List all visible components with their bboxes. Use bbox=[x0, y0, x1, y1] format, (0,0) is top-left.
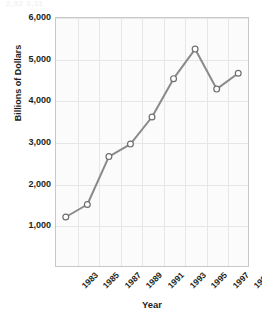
data-point-marker bbox=[128, 141, 134, 147]
x-axis-tick-label: 1999 bbox=[252, 270, 262, 290]
x-axis-tick-label: 1993 bbox=[187, 270, 207, 290]
data-point-marker bbox=[214, 86, 220, 92]
data-point-marker bbox=[192, 46, 198, 52]
series-line bbox=[66, 49, 238, 217]
data-point-marker bbox=[84, 202, 90, 208]
x-axis-tick-label: 1991 bbox=[166, 270, 186, 290]
x-axis-title: Year bbox=[55, 299, 249, 310]
x-axis-tick-label: 1987 bbox=[122, 270, 142, 290]
y-axis-tick-label: 2,000 bbox=[3, 179, 51, 189]
data-point-marker bbox=[149, 114, 155, 120]
x-axis-tick-label: 1997 bbox=[230, 270, 250, 290]
line-chart: 2,52 2,11 Billions of Dollars 6,0005,000… bbox=[0, 0, 262, 316]
data-point-marker bbox=[235, 70, 241, 76]
x-axis-tick-label: 1983 bbox=[79, 270, 99, 290]
x-axis-tick-label: 1989 bbox=[144, 270, 164, 290]
y-axis-tick-label: 1,000 bbox=[3, 220, 51, 230]
x-axis-tick-label: 1985 bbox=[101, 270, 121, 290]
y-axis-tick-label: 4,000 bbox=[3, 95, 51, 105]
data-point-marker bbox=[171, 76, 177, 82]
data-point-marker bbox=[106, 154, 112, 160]
y-axis-tick-label: 6,000 bbox=[3, 12, 51, 22]
x-axis-tick-labels: 198319851987198919911993199519971999 bbox=[55, 268, 249, 300]
data-series-layer bbox=[55, 17, 249, 267]
y-axis-tick-label: 3,000 bbox=[3, 137, 51, 147]
data-point-marker bbox=[63, 214, 69, 220]
faded-header-text: 2,52 2,11 bbox=[6, 0, 43, 8]
y-axis-tick-labels: 6,0005,0004,0003,0002,0001,000 bbox=[0, 17, 51, 267]
y-axis-tick-label: 5,000 bbox=[3, 54, 51, 64]
x-axis-tick-label: 1995 bbox=[209, 270, 229, 290]
